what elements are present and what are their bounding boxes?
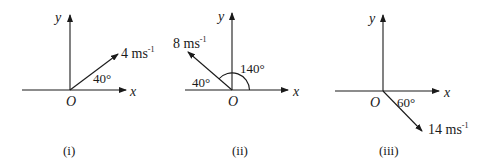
x-label-i: x (129, 84, 137, 99)
x-label-iii: x (443, 85, 451, 100)
x-label-ii: x (292, 84, 300, 99)
origin-label-iii: O (370, 95, 380, 110)
vector-label-ii: 8 ms-1 (173, 35, 207, 51)
figure-svg: y x O 40° 4 ms-1 (i) y x O 40° 140° 8 ms… (0, 0, 490, 164)
angle-label-i: 40° (93, 71, 111, 86)
diagram-iii: y x O 60° 14 ms-1 (iii) (335, 11, 469, 158)
caption-i: (i) (63, 143, 75, 158)
y-label-ii: y (216, 9, 225, 24)
angle-label-iii: 60° (397, 95, 415, 110)
origin-label-i: O (66, 94, 76, 109)
vector-label-i: 4 ms-1 (121, 45, 155, 61)
caption-iii: (iii) (379, 143, 399, 158)
y-label-iii: y (367, 11, 376, 26)
caption-ii: (ii) (232, 143, 248, 158)
angle-label-ii-40: 40° (192, 75, 210, 90)
vector-label-iii: 14 ms-1 (428, 121, 469, 137)
y-label-i: y (53, 10, 62, 25)
angle-label-ii-140: 140° (240, 61, 265, 76)
origin-label-ii: O (228, 94, 238, 109)
diagram-ii: y x O 40° 140° 8 ms-1 (ii) (173, 9, 300, 158)
diagram-i: y x O 40° 4 ms-1 (i) (22, 10, 155, 158)
vector-diagrams-figure: y x O 40° 4 ms-1 (i) y x O 40° 140° 8 ms… (0, 0, 490, 164)
